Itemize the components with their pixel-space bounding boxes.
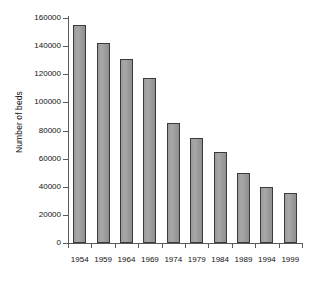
- bar: [190, 138, 203, 243]
- y-tick-label: 40000: [22, 183, 61, 191]
- x-tick-mark: [91, 243, 92, 248]
- bar: [97, 43, 110, 243]
- x-tick-mark: [255, 243, 256, 248]
- x-tick-label: 1994: [255, 255, 278, 264]
- y-tick-label: 120000: [22, 70, 61, 78]
- bar: [284, 193, 297, 243]
- bar: [143, 78, 156, 243]
- x-tick-mark: [208, 243, 209, 248]
- x-tick-label: 1969: [138, 255, 161, 264]
- x-tick-label: 1984: [208, 255, 231, 264]
- bar: [120, 59, 133, 243]
- bar: [167, 123, 180, 243]
- bar-chart-figure: Number of beds 0200004000060000800001000…: [0, 0, 311, 282]
- x-tick-label: 1979: [185, 255, 208, 264]
- x-tick-label: 1989: [232, 255, 255, 264]
- bar: [73, 25, 86, 243]
- bar: [214, 152, 227, 243]
- x-tick-mark: [115, 243, 116, 248]
- x-tick-mark: [279, 243, 280, 248]
- x-tick-label: 1964: [115, 255, 138, 264]
- x-tick-label: 1974: [162, 255, 185, 264]
- plot-area: [68, 18, 302, 243]
- bar: [237, 173, 250, 243]
- y-tick-label: 0: [22, 239, 61, 247]
- y-tick-label: 80000: [22, 127, 61, 135]
- x-tick-mark: [232, 243, 233, 248]
- y-tick-label: 100000: [22, 98, 61, 106]
- x-tick-mark: [302, 243, 303, 248]
- x-tick-mark: [138, 243, 139, 248]
- y-axis-title: Number of beds: [8, 0, 30, 243]
- x-tick-mark: [162, 243, 163, 248]
- x-tick-mark: [185, 243, 186, 248]
- y-tick-label: 20000: [22, 211, 61, 219]
- x-tick-label: 1954: [68, 255, 91, 264]
- x-tick-label: 1999: [279, 255, 302, 264]
- y-tick-label: 160000: [22, 14, 61, 22]
- x-tick-label: 1959: [91, 255, 114, 264]
- y-tick-label: 60000: [22, 155, 61, 163]
- bar: [260, 187, 273, 243]
- y-tick-label: 140000: [22, 42, 61, 50]
- x-tick-mark: [68, 243, 69, 248]
